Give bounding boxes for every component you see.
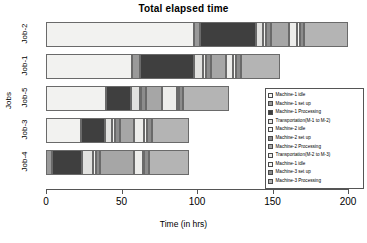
x-tick-label: 150 (253, 196, 293, 207)
legend-label: Machine-1 idle (276, 162, 306, 167)
bar-segment[interactable] (46, 22, 194, 47)
legend-swatch-icon (268, 127, 273, 132)
bar-segment[interactable] (81, 118, 105, 143)
legend-item[interactable]: Machine-2 idle (268, 125, 361, 134)
bar-segment[interactable] (105, 118, 113, 143)
bar-segment[interactable] (120, 118, 134, 143)
bar-segment[interactable] (149, 150, 190, 175)
bar-segment[interactable] (194, 54, 203, 79)
legend-label: Machine-2 set up (276, 136, 311, 141)
legend-label: Machine-1 set up (276, 102, 311, 107)
y-tick-label: Job-4 (20, 147, 29, 177)
bar-segment[interactable] (82, 150, 93, 175)
legend-item[interactable]: Machine-3 Processing (268, 177, 361, 186)
bar-segment[interactable] (46, 86, 106, 111)
legend-label: Transportation(M-2 to M-3) (276, 153, 331, 158)
legend-item[interactable]: Machine-1 idle (268, 160, 361, 169)
bar-segment[interactable] (289, 22, 297, 47)
x-tick-label: 100 (177, 196, 217, 207)
x-tick-mark (197, 189, 198, 194)
legend-label: Machine-2 idle (276, 127, 306, 132)
legend-item[interactable]: Machine-3 set up (268, 168, 361, 177)
legend-swatch-icon (268, 119, 273, 124)
y-axis-label: Jobs (4, 79, 13, 123)
x-tick-label: 0 (26, 196, 66, 207)
legend: Machine-1 idleMachine-1 set upMachine-1 … (265, 88, 364, 189)
legend-item[interactable]: Machine-1 Processing (268, 108, 361, 117)
bar-segment[interactable] (304, 22, 348, 47)
y-tick-label: Job-2 (20, 19, 29, 49)
legend-label: Machine-2 Processing (276, 145, 321, 150)
legend-label: Machine-3 Processing (276, 179, 321, 184)
bar-segment[interactable] (241, 54, 280, 79)
bar-job-5[interactable] (46, 86, 229, 111)
legend-item[interactable]: Transportation(M-2 to M-3) (268, 151, 361, 160)
bar-segment[interactable] (52, 150, 82, 175)
x-tick-mark (348, 189, 349, 194)
bar-segment[interactable] (140, 54, 194, 79)
bar-segment[interactable] (226, 54, 234, 79)
legend-swatch-icon (268, 162, 273, 167)
gantt-chart: Total elapsed time Jobs Job-2Job-1Job-5J… (0, 0, 367, 243)
bar-job-2[interactable] (46, 22, 348, 47)
legend-item[interactable]: Transportation(M-1 to M-2) (268, 117, 361, 126)
bar-segment[interactable] (146, 86, 163, 111)
legend-swatch-icon (268, 110, 273, 115)
x-axis-label: Time (in hrs) (0, 219, 367, 229)
page-title: Total elapsed time (0, 3, 367, 14)
bar-segment[interactable] (46, 54, 132, 79)
legend-swatch-icon (268, 179, 273, 184)
legend-swatch-icon (268, 170, 273, 175)
legend-swatch-icon (268, 101, 273, 106)
bar-segment[interactable] (211, 54, 226, 79)
y-tick-label: Job-5 (20, 83, 29, 113)
legend-label: Machine-1 Processing (276, 110, 321, 115)
legend-item[interactable]: Machine-1 idle (268, 91, 361, 100)
bar-segment[interactable] (100, 150, 133, 175)
legend-label: Machine-3 set up (276, 170, 311, 175)
bar-job-4[interactable] (46, 150, 189, 175)
x-tick-mark (46, 189, 47, 194)
bar-job-3[interactable] (46, 118, 189, 143)
bar-segment[interactable] (134, 150, 143, 175)
bar-segment[interactable] (106, 86, 130, 111)
bar-job-1[interactable] (46, 54, 280, 79)
y-tick-label: Job-3 (20, 115, 29, 145)
bar-segment[interactable] (132, 54, 140, 79)
x-tick-label: 50 (102, 196, 142, 207)
legend-swatch-icon (268, 136, 273, 141)
bar-segment[interactable] (200, 22, 256, 47)
x-tick-mark (122, 189, 123, 194)
legend-swatch-icon (268, 93, 273, 98)
legend-item[interactable]: Machine-2 Processing (268, 143, 361, 152)
bar-segment[interactable] (134, 118, 145, 143)
legend-swatch-icon (268, 153, 273, 158)
legend-label: Transportation(M-1 to M-2) (276, 119, 331, 124)
x-tick-mark (273, 189, 274, 194)
bar-segment[interactable] (183, 86, 228, 111)
bar-segment[interactable] (271, 22, 289, 47)
y-tick-label: Job-1 (20, 51, 29, 81)
x-tick-label: 200 (328, 196, 367, 207)
bar-segment[interactable] (256, 22, 264, 47)
bar-segment[interactable] (162, 86, 177, 111)
bar-segment[interactable] (152, 118, 190, 143)
legend-item[interactable]: Machine-1 set up (268, 100, 361, 109)
bar-segment[interactable] (46, 118, 81, 143)
legend-swatch-icon (268, 144, 273, 149)
legend-item[interactable]: Machine-2 set up (268, 134, 361, 143)
bar-segment[interactable] (131, 86, 140, 111)
legend-label: Machine-1 idle (276, 93, 306, 98)
